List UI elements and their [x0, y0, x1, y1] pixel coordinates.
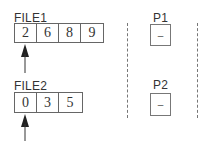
file2-array: 0 3 5 — [14, 92, 83, 113]
file1-cell: 2 — [15, 24, 37, 42]
divider-left — [127, 23, 128, 118]
file2-pointer-arrow-icon — [20, 114, 30, 142]
p2-label: P2 — [153, 79, 168, 91]
p1-box: – — [150, 24, 171, 46]
file1-cell: 6 — [37, 24, 59, 42]
file2-cell: 3 — [37, 93, 59, 112]
divider-right — [197, 23, 198, 118]
file1-cell: 9 — [81, 24, 103, 42]
file1-pointer-arrow-icon — [20, 44, 30, 74]
file1-array: 2 6 8 9 — [14, 23, 104, 43]
file2-label: FILE2 — [14, 80, 47, 92]
file2-cell: 0 — [15, 93, 37, 112]
p2-box: – — [150, 93, 171, 116]
file2-cell: 5 — [59, 93, 81, 112]
file1-cell: 8 — [59, 24, 81, 42]
p1-label: P1 — [153, 12, 168, 24]
